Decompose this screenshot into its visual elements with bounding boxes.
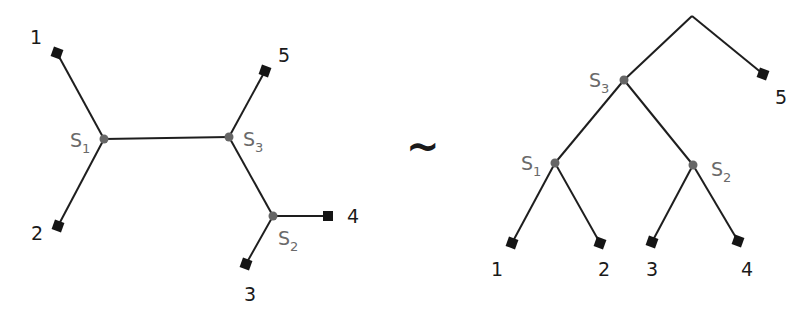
edge-s3-s1 [555,80,624,163]
leaf-2-marker [52,220,65,233]
leaf-3-marker [646,236,659,249]
node-s2-label: S2 [711,158,731,185]
leaf-5-marker [259,65,272,78]
node-s1-marker [551,159,560,168]
edge-root-s3 [624,16,692,80]
node-s2-marker [269,212,278,221]
edge-s3-s2 [624,80,693,165]
node-s3-label: S3 [589,69,609,96]
edge-s2-leaf3 [246,216,273,264]
node-s1-marker [100,135,109,144]
leaf-4-label: 4 [347,205,359,227]
leaf-3-label: 3 [646,258,658,280]
edge-s1-leaf2 [555,163,600,243]
phylogenetic-trees-diagram: 1 2 3 4 5 S1 S3 S2 ~ S3 S1 S2 1 2 3 4 5 [0,0,812,312]
leaf-1-label: 1 [30,26,42,48]
leaf-4-marker [323,211,333,221]
leaf-5-label: 5 [278,44,290,66]
leaf-4-label: 4 [741,258,753,280]
edge-s1-s3 [104,137,229,139]
leaf-5-label: 5 [775,86,787,108]
edge-root-leaf5 [692,16,763,74]
unrooted-tree: 1 2 3 4 5 S1 S3 S2 [30,26,359,305]
edge-s2-leaf3 [652,165,693,242]
node-s1-label: S1 [521,152,541,179]
node-s3-label: S3 [243,128,263,155]
rooted-tree: S3 S1 S2 1 2 3 4 5 [491,16,787,280]
leaf-2-marker [594,237,607,250]
leaf-3-marker [240,258,253,271]
leaf-2-label: 2 [598,258,610,280]
node-s2-label: S2 [278,227,298,254]
edge-leaf2-s1 [58,139,104,226]
node-s1-label: S1 [70,129,90,156]
edge-leaf1-s1 [57,53,104,139]
node-s3-marker [225,133,234,142]
leaf-1-marker [506,237,519,250]
leaf-2-label: 2 [31,222,43,244]
node-s3-marker [620,76,629,85]
equivalence-tilde: ~ [406,123,440,169]
node-s2-marker [689,161,698,170]
leaf-3-label: 3 [244,283,256,305]
leaf-1-label: 1 [491,258,503,280]
leaf-4-marker [732,235,745,248]
leaf-1-marker [51,47,64,60]
